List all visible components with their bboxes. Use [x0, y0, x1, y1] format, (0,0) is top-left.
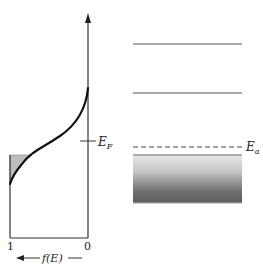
band-diagram: Ea — [133, 44, 260, 203]
x-axis-label: f(E) — [41, 252, 63, 265]
x-axis-left-arrow-icon — [16, 255, 24, 261]
fermi-dirac-curve — [10, 88, 88, 184]
diagram-canvas: EF 1 0 f(E) Ea — [0, 0, 263, 265]
valence-band — [133, 155, 242, 203]
energy-axis-arrow-icon — [85, 13, 91, 23]
acceptor-level-label: Ea — [245, 140, 260, 156]
fermi-level-label: EF — [97, 135, 113, 151]
occupied-shaded-region — [10, 155, 32, 183]
fermi-plot: EF 1 0 f(E) — [7, 13, 113, 265]
x-tick-zero: 0 — [84, 240, 91, 253]
x-tick-one: 1 — [7, 240, 14, 253]
